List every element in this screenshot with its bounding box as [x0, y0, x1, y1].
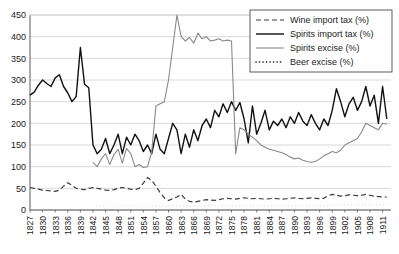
y-axis-ticks: 050100150200250300350400450 [11, 10, 26, 215]
x-tick-label: 1902 [340, 216, 350, 235]
y-tick-label: 400 [11, 32, 26, 42]
x-tick-label: 1854 [139, 216, 149, 235]
y-tick-label: 50 [16, 184, 26, 194]
x-tick-label: 1872 [214, 216, 224, 235]
x-tick-label: 1836 [63, 216, 73, 235]
x-tick-label: 1893 [302, 216, 312, 235]
y-tick-label: 0 [21, 205, 26, 215]
x-tick-label: 1833 [51, 216, 61, 235]
x-tick-label: 1842 [88, 216, 98, 235]
y-tick-label: 350 [11, 54, 26, 64]
line-chart: 050100150200250300350400450 182718301833… [0, 0, 399, 254]
x-tick-label: 1887 [277, 216, 287, 235]
legend-label-2: Spirits import tax (%) [290, 29, 374, 39]
y-tick-label: 100 [11, 162, 26, 172]
x-tick-label: 1866 [189, 216, 199, 235]
x-tick-label: 1899 [328, 216, 338, 235]
x-tick-label: 1905 [353, 216, 363, 235]
x-tick-label: 1863 [177, 216, 187, 235]
y-tick-label: 450 [11, 10, 26, 20]
x-tick-label: 1839 [76, 216, 86, 235]
x-tick-label: 1878 [239, 216, 249, 235]
x-tick-label: 1845 [101, 216, 111, 235]
series-line-4 [93, 205, 387, 207]
x-tick-label: 1890 [290, 216, 300, 235]
x-tick-label: 1881 [252, 216, 262, 235]
x-tick-label: 1827 [25, 216, 35, 235]
x-tick-label: 1896 [315, 216, 325, 235]
chart-legend: Wine import tax (%)Spirits import tax (%… [250, 10, 392, 72]
x-tick-label: 1884 [265, 216, 275, 235]
y-tick-label: 300 [11, 75, 26, 85]
x-tick-label: 1848 [114, 216, 124, 235]
x-tick-label: 1908 [365, 216, 375, 235]
y-tick-label: 250 [11, 97, 26, 107]
x-tick-label: 1911 [378, 216, 388, 235]
chart-container: 050100150200250300350400450 182718301833… [0, 0, 399, 254]
series-line-1 [30, 178, 387, 203]
x-tick-label: 1860 [164, 216, 174, 235]
x-tick-label: 1851 [126, 216, 136, 235]
y-tick-label: 150 [11, 140, 26, 150]
y-tick-label: 200 [11, 119, 26, 129]
x-tick-label: 1875 [227, 216, 237, 235]
x-tick-label: 1857 [151, 216, 161, 235]
x-tick-label: 1869 [202, 216, 212, 235]
legend-label-3: Spirits excise (%) [290, 43, 360, 53]
x-tick-label: 1830 [38, 216, 48, 235]
legend-label-4: Beer excise (%) [290, 57, 354, 67]
legend-label-1: Wine import tax (%) [290, 15, 369, 25]
x-axis-ticks: 1827183018331836183918421845184818511854… [25, 210, 388, 235]
